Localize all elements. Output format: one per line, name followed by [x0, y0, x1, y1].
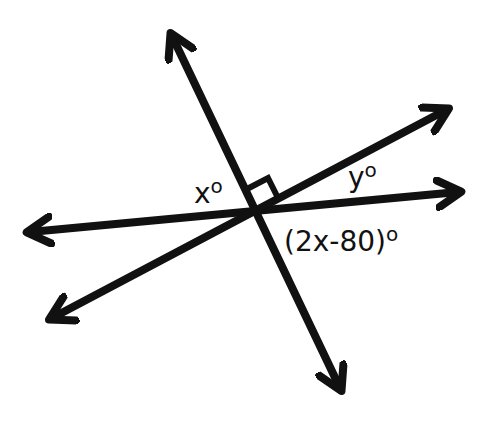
degree-symbol: o: [365, 158, 377, 182]
line-c: [52, 110, 446, 318]
angle-label-expression: (2x-80)o: [284, 224, 398, 256]
degree-symbol: o: [386, 222, 398, 246]
angle-x-text: x: [194, 177, 211, 210]
angle-y-text: y: [348, 161, 365, 194]
angle-expr-text: (2x-80): [284, 225, 386, 258]
angle-label-x: xo: [194, 176, 223, 208]
angle-label-y: yo: [348, 160, 377, 192]
angle-diagram: [0, 0, 488, 428]
degree-symbol: o: [211, 174, 223, 198]
